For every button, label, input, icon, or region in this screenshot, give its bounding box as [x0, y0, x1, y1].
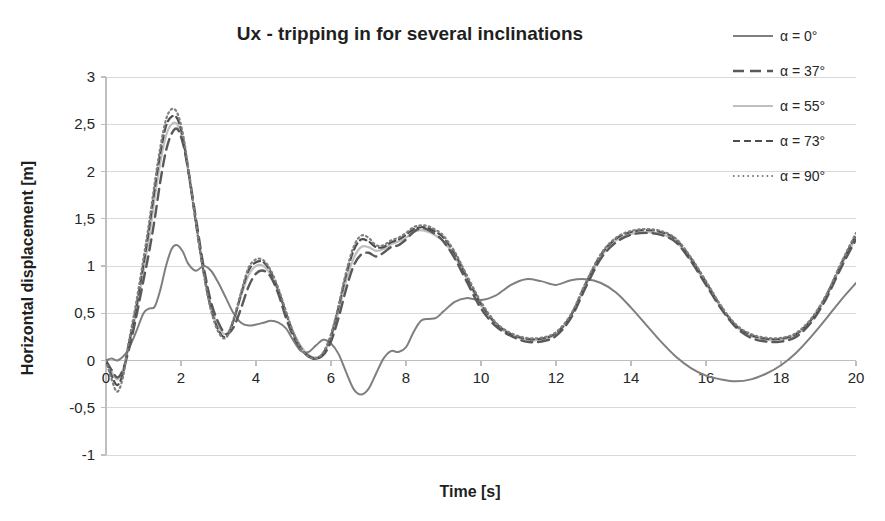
y-tick-label: 0: [87, 352, 95, 369]
legend-label: α = 55°: [780, 98, 825, 114]
x-tick-label: 18: [773, 369, 790, 386]
y-tick-label: 2: [87, 163, 95, 180]
x-tick-label: 12: [548, 369, 565, 386]
chart-figure: Ux - tripping in for several inclination…: [0, 0, 885, 521]
legend-label: α = 90°: [780, 168, 825, 184]
x-tick-label: 4: [252, 369, 260, 386]
x-tick-label: 20: [848, 369, 865, 386]
x-tick-label: 14: [623, 369, 640, 386]
legend-label: α = 0°: [780, 28, 817, 44]
chart-title: Ux - tripping in for several inclination…: [237, 23, 583, 44]
legend-label: α = 37°: [780, 63, 825, 79]
legend-label: α = 73°: [780, 133, 825, 149]
x-tick-label: 10: [473, 369, 490, 386]
y-tick-label: 1: [87, 257, 95, 274]
y-tick-label: 0,5: [74, 304, 95, 321]
x-axis-title: Time [s]: [439, 483, 500, 500]
y-tick-label: -1: [82, 446, 95, 463]
y-tick-label: 2,5: [74, 115, 95, 132]
y-tick-label: 1,5: [74, 210, 95, 227]
y-tick-label: 3: [87, 68, 95, 85]
x-tick-label: 6: [327, 369, 335, 386]
x-tick-label: 8: [402, 369, 410, 386]
y-tick-label: -0,5: [69, 399, 95, 416]
y-axis-title: Horizontal displacement [m]: [19, 161, 36, 375]
x-tick-label: 2: [177, 369, 185, 386]
